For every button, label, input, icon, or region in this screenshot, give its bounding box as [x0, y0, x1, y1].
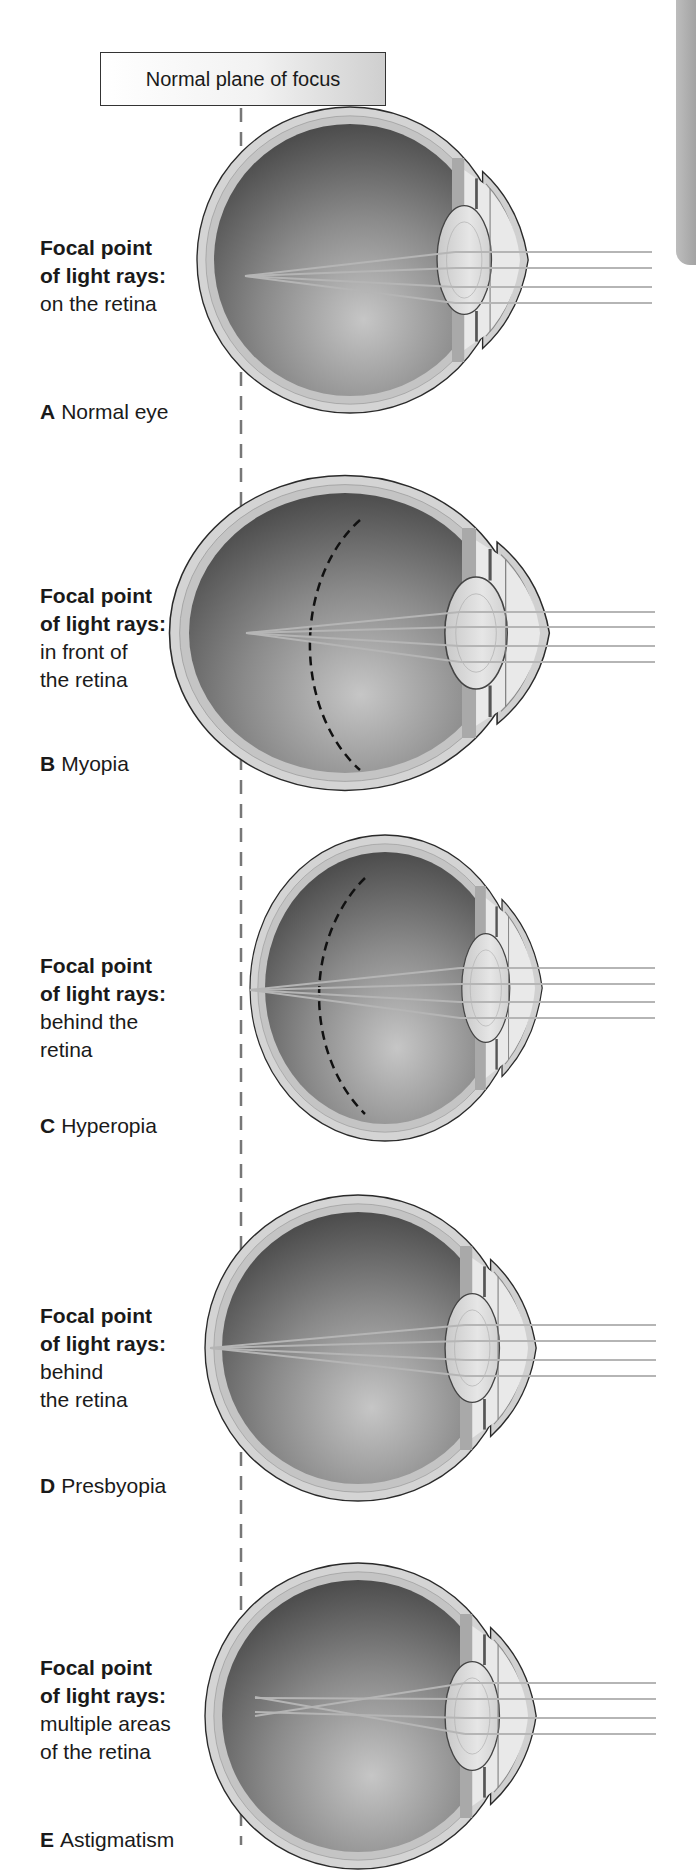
- panel-label-c: CHyperopia: [40, 1114, 157, 1138]
- focal-point-text-b: Focal point of light rays: in front of t…: [40, 582, 240, 694]
- focal-point-text-c: Focal point of light rays: behind the re…: [40, 952, 240, 1064]
- eye-presbyopia: [205, 1195, 536, 1501]
- panel-label-e: EAstigmatism: [40, 1828, 174, 1852]
- panel-label-b: BMyopia: [40, 752, 129, 776]
- focal-point-text-d: Focal point of light rays: behind the re…: [40, 1302, 240, 1414]
- focal-point-text-a: Focal point of light rays: on the retina: [40, 234, 240, 318]
- panel-label-d: DPresbyopia: [40, 1474, 166, 1498]
- focal-point-text-e: Focal point of light rays: multiple area…: [40, 1654, 240, 1766]
- panel-label-a: ANormal eye: [40, 400, 169, 424]
- eye-normal: [197, 107, 528, 413]
